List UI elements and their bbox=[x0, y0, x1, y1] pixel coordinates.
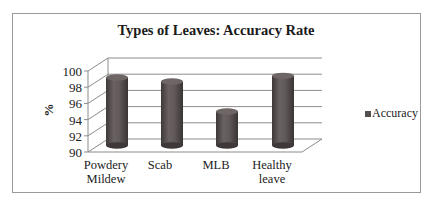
x-tick-label: Mildew bbox=[87, 172, 126, 186]
legend-label: Accuracy bbox=[372, 106, 418, 121]
bar bbox=[216, 108, 238, 148]
y-tick-label: 94 bbox=[69, 113, 83, 128]
x-tick-label: Powdery bbox=[84, 158, 129, 172]
x-tick-label: Scab bbox=[148, 158, 172, 172]
y-tick-label: 98 bbox=[69, 80, 82, 95]
y-tick-label: 92 bbox=[69, 129, 82, 144]
bars bbox=[106, 73, 294, 149]
bar bbox=[272, 73, 294, 149]
bar bbox=[161, 78, 183, 148]
y-tick-label: 96 bbox=[69, 96, 83, 111]
plot-area: 9092949698100 % PowderyMildewScabMLBHeal… bbox=[0, 0, 432, 203]
x-axis-labels: PowderyMildewScabMLBHealthyleave bbox=[84, 158, 293, 186]
legend-swatch-icon bbox=[365, 111, 371, 117]
bar bbox=[106, 74, 128, 148]
legend: Accuracy bbox=[365, 106, 418, 121]
y-tick-label: 90 bbox=[69, 145, 82, 160]
x-tick-label: MLB bbox=[202, 158, 229, 172]
y-tick-label: 100 bbox=[63, 64, 83, 79]
y-axis-ticks: 9092949698100 bbox=[63, 64, 83, 160]
x-tick-label: leave bbox=[259, 172, 286, 186]
x-tick-label: Healthy bbox=[252, 158, 292, 172]
y-axis-title: % bbox=[41, 104, 56, 117]
